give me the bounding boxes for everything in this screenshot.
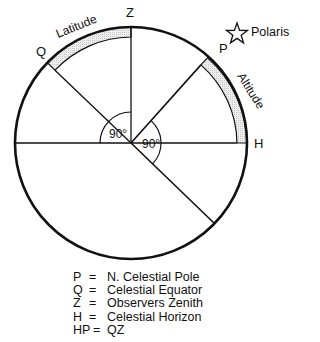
label-z: Z	[126, 5, 134, 20]
legend: P = N. Celestial Pole Q = Celestial Equa…	[73, 271, 203, 337]
label-p: P	[219, 41, 228, 56]
label-angle-left: 90°	[109, 127, 127, 141]
legend-value: QZ	[107, 324, 124, 337]
label-h: H	[254, 136, 263, 151]
legend-key: Z	[73, 297, 89, 310]
lower-right-line	[131, 143, 215, 224]
legend-equals: =	[89, 297, 107, 310]
legend-equals: =	[89, 311, 107, 324]
legend-item: HP = QZ	[73, 324, 203, 337]
legend-key: H	[73, 311, 89, 324]
legend-item: Z = Observers Zenith	[73, 297, 203, 310]
label-q: Q	[36, 44, 46, 59]
label-polaris: Polaris	[251, 25, 289, 39]
polaris-star-icon	[227, 23, 248, 43]
pole-line	[131, 65, 201, 143]
legend-value: Celestial Horizon	[107, 311, 201, 324]
legend-key: HP	[73, 324, 93, 337]
legend-item: H = Celestial Horizon	[73, 311, 203, 324]
legend-value: Observers Zenith	[107, 297, 203, 310]
legend-equals: =	[93, 324, 107, 337]
label-angle-right: 90°	[142, 137, 160, 151]
